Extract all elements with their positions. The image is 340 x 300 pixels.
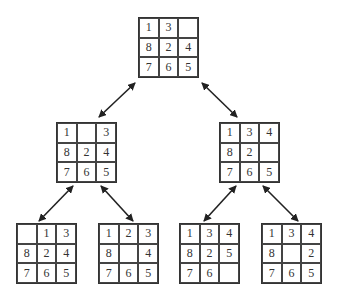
tile: 4 [56, 244, 76, 264]
double-arrow-icon [101, 186, 133, 221]
tile: 8 [262, 244, 282, 264]
tile: 3 [240, 123, 260, 143]
tile: 2 [301, 244, 321, 264]
tile: 6 [159, 57, 179, 77]
tile: 7 [99, 263, 119, 283]
blank-tile [282, 244, 302, 264]
tile: 5 [259, 162, 279, 182]
tile: 7 [17, 263, 37, 283]
tile: 6 [119, 263, 139, 283]
tile: 8 [220, 143, 240, 163]
tile: 3 [56, 224, 76, 244]
double-arrow-icon [39, 186, 73, 221]
tile: 6 [200, 263, 220, 283]
double-arrow-icon [204, 186, 236, 221]
tile: 7 [57, 162, 77, 182]
tile: 5 [96, 162, 116, 182]
tile: 6 [37, 263, 57, 283]
tile: 3 [96, 123, 116, 143]
tile: 8 [57, 143, 77, 163]
blank-tile [219, 263, 239, 283]
tile: 8 [180, 244, 200, 264]
tile: 7 [262, 263, 282, 283]
tile: 2 [77, 143, 97, 163]
board-level1-left: 13824765 [56, 122, 117, 183]
tile: 3 [282, 224, 302, 244]
tile: 5 [56, 263, 76, 283]
tile: 1 [139, 18, 159, 38]
tile: 4 [138, 244, 158, 264]
tile: 7 [180, 263, 200, 283]
tile: 5 [138, 263, 158, 283]
tile: 7 [139, 57, 159, 77]
tile: 5 [219, 244, 239, 264]
tile: 8 [139, 38, 159, 58]
blank-tile [178, 18, 198, 38]
tile: 1 [99, 224, 119, 244]
blank-tile [259, 143, 279, 163]
double-arrow-icon [202, 83, 237, 117]
tile: 3 [159, 18, 179, 38]
tile: 6 [240, 162, 260, 182]
tile: 4 [219, 224, 239, 244]
tile: 4 [178, 38, 198, 58]
double-arrow-icon [263, 186, 298, 221]
tile: 3 [200, 224, 220, 244]
tile: 1 [37, 224, 57, 244]
tile: 2 [200, 244, 220, 264]
tile: 1 [180, 224, 200, 244]
tile: 6 [77, 162, 97, 182]
tile: 1 [262, 224, 282, 244]
tile: 2 [119, 224, 139, 244]
board-level2-b: 12384765 [98, 223, 159, 284]
tile: 2 [240, 143, 260, 163]
tile: 1 [220, 123, 240, 143]
board-level2-a: 13824765 [16, 223, 77, 284]
board-level2-c: 13482576 [179, 223, 240, 284]
tile: 5 [301, 263, 321, 283]
blank-tile [119, 244, 139, 264]
tile: 8 [17, 244, 37, 264]
tile: 4 [301, 224, 321, 244]
tile: 2 [37, 244, 57, 264]
tile: 1 [57, 123, 77, 143]
tile: 6 [282, 263, 302, 283]
tile: 4 [259, 123, 279, 143]
blank-tile [77, 123, 97, 143]
board-root: 13824765 [138, 17, 199, 78]
tile: 4 [96, 143, 116, 163]
tile: 3 [138, 224, 158, 244]
blank-tile [17, 224, 37, 244]
double-arrow-icon [99, 83, 135, 117]
board-level2-d: 13482765 [261, 223, 322, 284]
tile: 7 [220, 162, 240, 182]
tile: 8 [99, 244, 119, 264]
tile: 5 [178, 57, 198, 77]
tile: 2 [159, 38, 179, 58]
board-level1-right: 13482765 [219, 122, 280, 183]
